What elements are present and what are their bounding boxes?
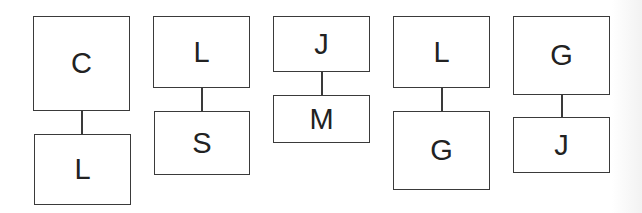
pair-5-bottom-label: J	[554, 129, 569, 162]
pair-4-bottom-label: G	[430, 134, 453, 167]
pair-2-connector	[201, 88, 203, 111]
pair-5-top-label: G	[550, 39, 573, 72]
pair-2-top-label: L	[193, 36, 209, 69]
pair-3-bottom-label: M	[309, 103, 333, 136]
pair-3-connector	[321, 72, 323, 95]
pair-4-top-label: L	[433, 36, 449, 69]
pair-3-top-box: J	[273, 16, 370, 72]
pair-1-connector	[81, 111, 83, 134]
pair-5-connector	[561, 95, 563, 118]
pair-1-bottom-box: L	[34, 134, 131, 205]
pair-1-top-box: C	[33, 16, 130, 111]
pair-3-top-label: J	[314, 28, 329, 61]
pair-5-bottom-box: J	[513, 117, 610, 173]
pair-4-bottom-box: G	[393, 111, 490, 190]
pair-2-bottom-box: S	[154, 111, 250, 175]
pair-4-top-box: L	[393, 16, 490, 88]
edge-shading	[612, 0, 642, 213]
pair-3-bottom-box: M	[273, 95, 370, 143]
pair-4-connector	[441, 88, 443, 111]
pair-1-top-label: C	[71, 47, 92, 80]
pair-5-top-box: G	[513, 16, 610, 95]
pair-1-bottom-label: L	[74, 153, 90, 186]
pair-2-top-box: L	[153, 16, 250, 88]
pair-2-bottom-label: S	[192, 127, 211, 160]
